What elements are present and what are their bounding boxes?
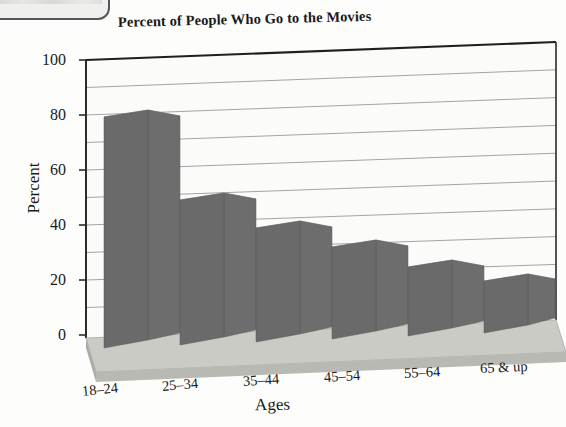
- bar-4-side: [376, 240, 408, 331]
- bar-4-front: [332, 240, 376, 339]
- x-tick-label-5: 55–64: [404, 363, 441, 382]
- y-tick-label-0: 0: [26, 327, 66, 343]
- x-tick-label-3: 35–44: [242, 370, 279, 389]
- x-axis-title: Ages: [255, 395, 290, 416]
- y-axis-title: Percent: [24, 128, 44, 248]
- y-axis-ticks: [79, 60, 86, 335]
- bar-3-side: [300, 221, 332, 334]
- bar-2-front: [180, 193, 224, 345]
- bar-1-front: [104, 110, 148, 348]
- x-tick-label-6: 65 & up: [480, 358, 528, 377]
- x-tick-label-2: 25–34: [161, 375, 199, 395]
- bar-5-side: [452, 260, 484, 328]
- y-tick-label-80: 80: [26, 107, 66, 123]
- bar-3-front: [256, 221, 300, 342]
- chart-plot-area: 100 80 60 40 20 0 Percent 18–24 25–34 35…: [0, 0, 566, 427]
- bar-1-side: [148, 110, 180, 340]
- bar-group-1: [104, 110, 180, 348]
- bar-group-4: [332, 240, 408, 339]
- bar-group-3: [256, 221, 332, 342]
- bar-6-side: [528, 274, 555, 325]
- y-tick-label-20: 20: [26, 272, 66, 288]
- bar-group-2: [180, 193, 256, 345]
- bar-2-side: [224, 193, 256, 337]
- y-tick-label-100: 100: [26, 52, 66, 68]
- bar-6-front: [484, 274, 528, 333]
- x-tick-label-4: 45–54: [323, 367, 360, 386]
- bar-5-front: [408, 260, 452, 336]
